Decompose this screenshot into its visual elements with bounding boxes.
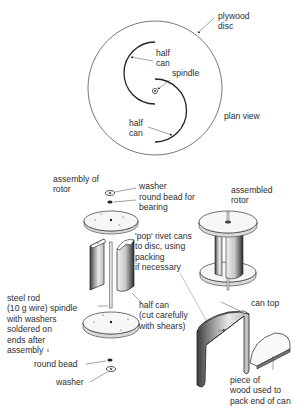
label-steel-rod: steel rod (10 g wire) spindle with washe…	[7, 293, 77, 355]
spindle-icon	[152, 88, 157, 93]
half-can-upper-arc	[124, 42, 155, 104]
label-washer-bottom: washer	[56, 377, 84, 387]
label-pop-rivet: 'pop' rivet cans to disc, using packing …	[135, 231, 192, 273]
plywood-disc-outline	[88, 21, 222, 155]
label-washer-top: washer	[139, 181, 167, 191]
label-plywood-disc: plywood disc	[218, 11, 250, 32]
washer-top-icon	[106, 191, 115, 196]
label-can-top: can top	[251, 298, 279, 308]
leader-spindle	[158, 80, 170, 89]
leader-half-can-upper	[131, 57, 153, 61]
half-can-right	[117, 239, 134, 291]
label-half-can-upper: half can	[156, 48, 170, 69]
leader-plywood-disc	[198, 18, 214, 33]
label-assembly-of-rotor: assembly of rotor	[53, 174, 99, 195]
label-wood-piece: piece of wood used to pack end of can	[230, 375, 291, 406]
label-assembled-rotor: assembled rotor	[231, 185, 273, 206]
half-can-lower-arc	[155, 79, 187, 142]
label-half-can-cut: half can (cut carefully with shears)	[139, 300, 188, 331]
top-disc	[84, 211, 138, 234]
bottom-disc	[83, 312, 139, 338]
label-spindle: spindle	[172, 68, 199, 78]
label-plan-view: plan view	[224, 111, 260, 121]
plan-view	[88, 18, 222, 155]
assembled-rotor	[199, 211, 257, 290]
label-round-bead-bearing: round bead for bearing	[139, 192, 195, 213]
steel-rod-spindle	[110, 242, 113, 308]
leader-half-can-lower	[148, 127, 172, 135]
savonius-rotor-diagram: plywood disc half can spindle plan view …	[0, 0, 304, 412]
label-round-bead-bottom: round bead	[34, 359, 78, 369]
round-bead-top-icon	[107, 200, 112, 203]
label-half-can-lower: half can	[129, 118, 143, 139]
washer-bottom-icon	[107, 367, 116, 372]
round-bead-bottom-icon	[107, 358, 112, 361]
half-can-left	[90, 239, 106, 290]
